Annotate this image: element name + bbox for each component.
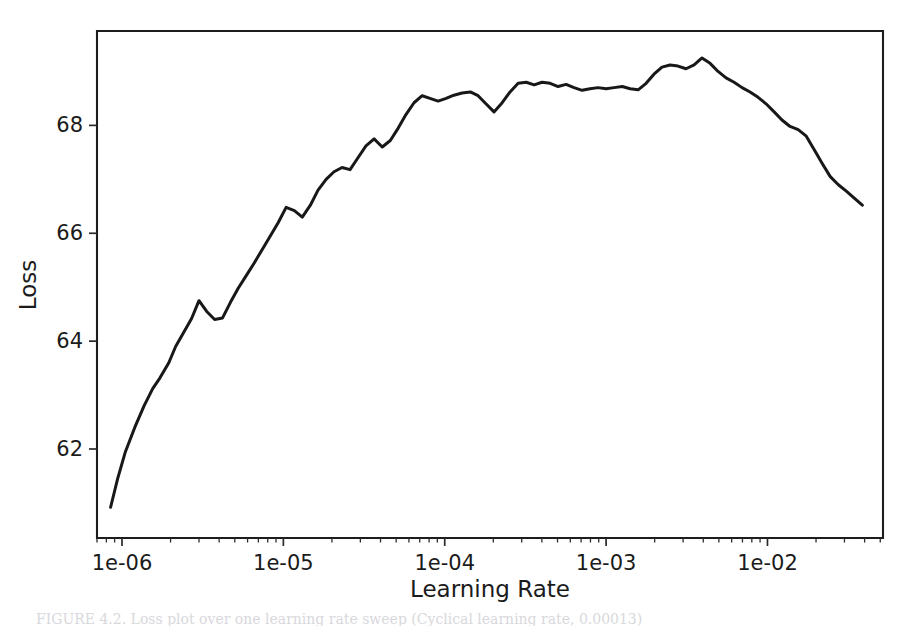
- y-tick-label: 68: [56, 113, 83, 137]
- y-tick-label: 64: [56, 329, 83, 353]
- x-axis-title: Learning Rate: [410, 576, 570, 602]
- figure-container: 1e-061e-051e-041e-031e-02 62646668 Learn…: [0, 0, 910, 626]
- y-tick-label: 62: [56, 437, 83, 461]
- x-tick-label: 1e-03: [576, 551, 637, 575]
- x-tick-label: 1e-06: [92, 551, 153, 575]
- x-tick-label: 1e-05: [253, 551, 314, 575]
- x-tick-label: 1e-02: [737, 551, 798, 575]
- y-tick-label: 66: [56, 221, 83, 245]
- x-tick-label: 1e-04: [414, 551, 475, 575]
- loss-vs-learning-rate-chart: 1e-061e-051e-041e-031e-02 62646668 Learn…: [0, 0, 910, 626]
- figure-caption: FIGURE 4.2. Loss plot over one learning …: [36, 612, 896, 626]
- y-axis-title: Loss: [15, 260, 41, 310]
